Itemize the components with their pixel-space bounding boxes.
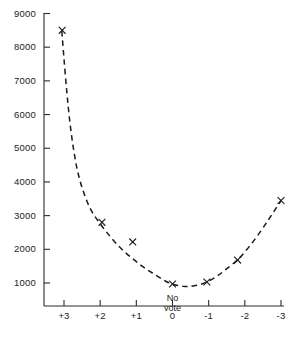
y-axis-ticks xyxy=(44,14,50,284)
y-tick-label: 3000 xyxy=(2,211,36,221)
data-point-marker xyxy=(129,239,136,246)
data-point-marker xyxy=(99,219,106,226)
data-point-marker xyxy=(203,279,210,286)
axes-group xyxy=(44,13,284,306)
y-tick-label: 4000 xyxy=(2,177,36,187)
x-tick-label: +1 xyxy=(123,311,149,321)
x-tick-label: +2 xyxy=(87,311,113,321)
x-tick-label: -2 xyxy=(232,311,258,321)
y-tick-label: 9000 xyxy=(2,9,36,19)
y-tick-label: 6000 xyxy=(2,110,36,120)
fitted-curve xyxy=(62,31,281,287)
y-tick-label: 8000 xyxy=(2,42,36,52)
no-vote-label-line: vote xyxy=(153,303,193,313)
y-tick-label: 1000 xyxy=(2,278,36,288)
x-tick-label: -1 xyxy=(196,311,222,321)
data-point-marker xyxy=(234,257,241,264)
x-tick-label: +3 xyxy=(51,311,77,321)
no-vote-label-line: No xyxy=(153,293,193,303)
data-point-marker xyxy=(278,197,285,204)
y-tick-label: 5000 xyxy=(2,143,36,153)
plot-area xyxy=(0,0,298,342)
chart-container: 900080007000600050004000300020001000 +3+… xyxy=(0,0,298,342)
data-point-markers xyxy=(59,27,285,287)
y-tick-label: 7000 xyxy=(2,76,36,86)
data-point-marker xyxy=(169,281,176,288)
y-tick-label: 2000 xyxy=(2,244,36,254)
x-tick-label: -3 xyxy=(268,311,294,321)
no-vote-label: Novote xyxy=(153,293,193,313)
